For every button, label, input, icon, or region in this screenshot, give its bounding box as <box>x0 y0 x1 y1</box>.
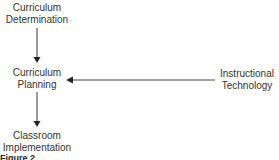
edges-layer <box>0 0 279 160</box>
figure-caption: Figure 2 <box>0 153 35 160</box>
arrow-technology-to-planning <box>66 77 215 84</box>
arrow-determination-to-planning <box>34 28 41 63</box>
arrow-planning-to-implementation <box>34 92 41 127</box>
